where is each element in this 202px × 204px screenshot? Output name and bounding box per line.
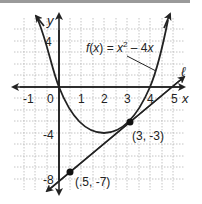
point-3-neg3 [127,119,134,126]
function-label: f(x) = x2 – 4x [86,40,154,55]
svg-text:-1: -1 [23,92,34,106]
svg-text:5: 5 [171,92,178,106]
svg-text:4: 4 [147,92,154,106]
svg-text:2: 2 [101,92,108,106]
x-tick-labels: -1 0 1 2 3 4 5 [23,92,178,106]
svg-text:-4: -4 [43,128,54,142]
graph: y x ℓ -1 0 1 2 3 4 5 4 -4 -8 f(x) = x2 –… [0,0,202,204]
svg-text:1: 1 [78,92,85,106]
y-tick-labels: 4 -4 -8 [43,35,54,187]
point-label-half-neg7: (.5, -7) [75,175,110,189]
y-axis-label: y [46,13,55,28]
svg-text:-8: -8 [43,173,54,187]
point-half-neg7 [67,169,74,176]
svg-text:0: 0 [47,92,54,106]
x-axis-label: x [181,91,189,106]
point-label-3-neg3: (3, -3) [132,129,164,143]
svg-text:3: 3 [124,92,131,106]
line-label: ℓ [181,64,186,79]
svg-text:4: 4 [45,35,52,49]
